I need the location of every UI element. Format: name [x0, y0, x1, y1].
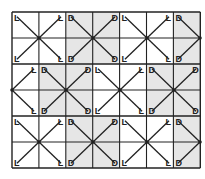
light-label: L	[58, 54, 64, 64]
light-label: L	[122, 13, 128, 23]
dark-label: D	[41, 65, 48, 75]
light-label: L	[58, 158, 64, 168]
tile-grid-diagram: LLLLDDDDLLLLDDLLDDDDLLLLDDDDLLLLDDDDLLLL…	[0, 0, 205, 179]
light-label: L	[14, 13, 20, 23]
dark-label: D	[85, 106, 92, 116]
light-label: L	[58, 117, 64, 127]
dark-label: D	[112, 13, 119, 23]
light-label: L	[14, 158, 20, 168]
light-label: L	[139, 106, 145, 116]
dark-label: D	[192, 106, 199, 116]
dark-label: D	[68, 13, 75, 23]
dark-label: D	[112, 158, 119, 168]
dark-label: D	[85, 65, 92, 75]
light-label: L	[122, 117, 128, 127]
light-label: L	[165, 13, 171, 23]
light-label: L	[95, 65, 101, 75]
dark-label: D	[175, 13, 182, 23]
light-label: L	[14, 54, 20, 64]
light-label: L	[165, 158, 171, 168]
light-label: L	[31, 106, 37, 116]
dark-label: D	[41, 106, 48, 116]
dark-label: D	[112, 117, 119, 127]
light-label: L	[14, 117, 20, 127]
dark-label: D	[149, 65, 156, 75]
dark-label: D	[149, 106, 156, 116]
dark-label: D	[175, 54, 182, 64]
light-label: L	[122, 158, 128, 168]
light-label: L	[31, 65, 37, 75]
dark-label: D	[175, 117, 182, 127]
dark-label: D	[68, 117, 75, 127]
light-label: L	[165, 54, 171, 64]
dark-label: D	[68, 158, 75, 168]
dark-label: D	[112, 54, 119, 64]
light-label: L	[122, 54, 128, 64]
light-label: L	[139, 65, 145, 75]
light-label: L	[95, 106, 101, 116]
dark-label: D	[68, 54, 75, 64]
dark-label: D	[192, 65, 199, 75]
light-label: L	[58, 13, 64, 23]
dark-label: D	[175, 158, 182, 168]
light-label: L	[165, 117, 171, 127]
